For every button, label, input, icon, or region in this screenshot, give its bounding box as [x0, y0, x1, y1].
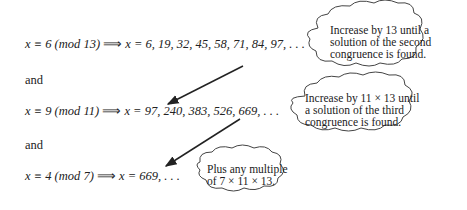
equation-3: x ≡ 4 (mod 7) ⟹ x = 669, . . .: [25, 168, 180, 184]
equation-3-lhs: x ≡ 4 (mod 7): [25, 169, 94, 183]
equation-3-rhs: x = 669, . . .: [119, 169, 180, 183]
callout-line: congruence is found.: [305, 116, 419, 128]
callout-line: Increase by 13 until a: [330, 24, 431, 36]
equation-2: x ≡ 9 (mod 11) ⟹ x = 97, 240, 383, 526, …: [25, 103, 279, 119]
callout-line: of 7 × 11 × 13.: [207, 175, 288, 187]
connector-and-1: and: [25, 73, 43, 88]
callout-line: Increase by 11 × 13 until: [305, 92, 419, 104]
callout-line: congruence is found.: [330, 48, 431, 60]
equation-1-lhs: x ≡ 6 (mod 13): [25, 37, 100, 51]
arrow-1: [168, 66, 243, 104]
callout-line: Plus any multiple: [207, 163, 288, 175]
implies-symbol: ⟹: [103, 37, 122, 51]
implies-symbol: ⟹: [97, 169, 116, 183]
equation-1-rhs: x = 6, 19, 32, 45, 58, 71, 84, 97, . . .: [125, 37, 305, 51]
callout-line: a solution of the third: [305, 104, 419, 116]
equation-2-lhs: x ≡ 9 (mod 11): [25, 104, 99, 118]
equation-1: x ≡ 6 (mod 13) ⟹ x = 6, 19, 32, 45, 58, …: [25, 36, 305, 52]
equation-2-rhs: x = 97, 240, 383, 526, 669, . . .: [124, 104, 279, 118]
callout-3-text: Plus any multiple of 7 × 11 × 13.: [207, 163, 288, 187]
callout-2-text: Increase by 11 × 13 until a solution of …: [305, 92, 419, 128]
implies-symbol: ⟹: [102, 104, 121, 118]
callout-line: solution of the second: [330, 36, 431, 48]
connector-and-2: and: [25, 138, 43, 153]
callout-1-text: Increase by 13 until a solution of the s…: [330, 24, 431, 60]
